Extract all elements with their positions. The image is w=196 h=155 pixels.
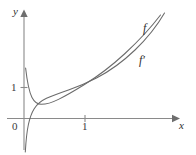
figure-graph-f-and-f-prime: y x 1 0 1 f f′ (0, 0, 196, 155)
origin-label: 0 (12, 121, 18, 132)
y-axis-label: y (13, 6, 18, 17)
curve-label-f-prime: f′ (139, 54, 145, 66)
curve-label-f: f (143, 22, 146, 34)
plot-canvas (0, 0, 196, 155)
x-tick-label-1: 1 (82, 121, 88, 132)
y-axis-arrowhead (20, 10, 27, 18)
x-axis-label: x (179, 120, 184, 131)
y-tick-label-1: 1 (11, 82, 17, 93)
